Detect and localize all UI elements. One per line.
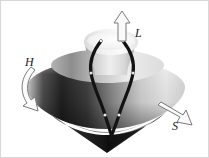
annotation-arrows (1, 1, 209, 158)
label-S: S (172, 120, 178, 132)
label-H: H (25, 56, 34, 68)
up-arrow-icon (114, 11, 130, 41)
curved-arrow-icon (22, 67, 38, 111)
label-L: L (135, 27, 142, 39)
figure-container: L H S (0, 0, 209, 158)
